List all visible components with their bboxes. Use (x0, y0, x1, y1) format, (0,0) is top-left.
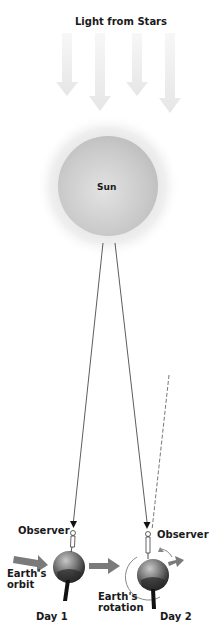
sight-lines (70, 243, 169, 530)
earth-axis-day2 (151, 589, 156, 609)
day1-label: Day 1 (36, 611, 68, 622)
starlight-arrows (56, 33, 181, 113)
earths-rotation-label-line1: Earth's (98, 591, 137, 602)
starlight-arrow-3 (126, 33, 148, 96)
rotation-arrow-icon (161, 549, 172, 557)
sight-line-day1 (74, 243, 104, 521)
starlight-arrow-2 (89, 33, 111, 111)
starlight-arrow-1 (56, 33, 78, 96)
earths-orbit-label-line1: Earth's (7, 568, 46, 579)
sight-arrow-day2 (144, 522, 151, 529)
earth-axis-day1 (63, 580, 70, 601)
orbit-forward-arrow-icon (168, 556, 184, 567)
diagram-canvas (0, 0, 211, 641)
orbit-progress-arrow-icon (89, 558, 120, 574)
observer-label-day1: Observer (18, 525, 70, 536)
earths-orbit-label-line2: orbit (7, 579, 34, 590)
sight-arrow-day1 (70, 521, 77, 528)
day2-label: Day 2 (160, 611, 192, 622)
observer-label-day2: Observer (157, 529, 209, 540)
parallel-dashed-line (152, 375, 169, 530)
sight-line-day2 (115, 243, 147, 522)
earths-rotation-label-line2: rotation (98, 602, 144, 613)
stellar-parallax-diagram: Light from Stars Sun Observer Observer E… (0, 0, 211, 641)
earth-day1 (53, 531, 85, 602)
diagram-title: Light from Stars (75, 16, 167, 27)
starlight-arrow-4 (159, 33, 181, 113)
sun-label: Sun (97, 182, 116, 193)
observer-figure-day2 (146, 532, 151, 560)
observer-figure-day1 (71, 531, 76, 553)
